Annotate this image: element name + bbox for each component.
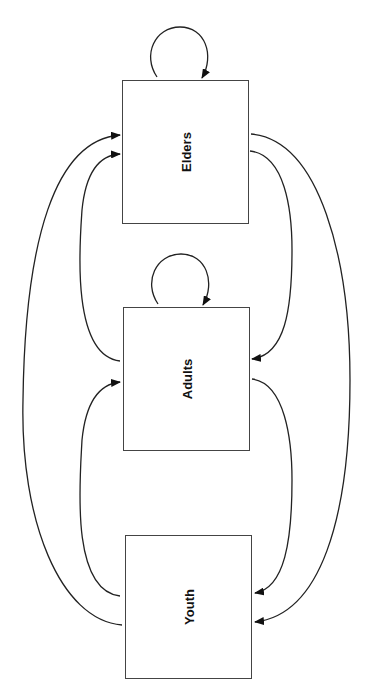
edge-elders-to-adults xyxy=(250,151,292,359)
node-youth-label: Youth xyxy=(181,589,196,625)
node-elders: Elders xyxy=(122,80,249,224)
node-elders-label: Elders xyxy=(178,132,193,172)
edge-elders-to-youth xyxy=(251,134,350,622)
edge-elders-self-loop xyxy=(151,27,208,78)
node-adults: Adults xyxy=(123,307,250,451)
edge-youth-to-adults xyxy=(80,382,120,596)
edge-adults-to-youth xyxy=(252,379,292,593)
node-adults-label: Adults xyxy=(179,359,194,399)
node-youth: Youth xyxy=(125,535,252,679)
edge-youth-to-elders xyxy=(23,135,122,625)
edge-adults-self-loop xyxy=(152,254,209,305)
edge-adults-to-elders xyxy=(80,154,120,361)
